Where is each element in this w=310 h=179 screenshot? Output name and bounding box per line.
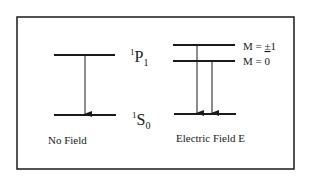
state-label-1p1: 1P1 (130, 47, 148, 68)
sublevel-label-m-pm1: M = ±1 (243, 40, 276, 52)
caption-no-field: No Field (48, 134, 87, 146)
sublevel-label-m-0: M = 0 (243, 55, 270, 67)
caption-electric-field: Electric Field E (176, 132, 245, 144)
state-label-1s0: 1S0 (132, 110, 150, 131)
energy-level-diagram: 1P1 1S0 M = ±1 M = 0 No Field Electric F… (0, 0, 310, 179)
